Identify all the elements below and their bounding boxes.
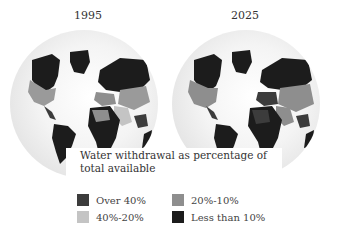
legend-item-40-20: 40%-20% (77, 211, 144, 223)
legend-swatch (77, 194, 89, 206)
legend-label: Less than 10% (191, 212, 265, 223)
legend-title-line-2: total available (80, 162, 280, 175)
legend-title: Water withdrawal as percentage of total … (80, 149, 280, 175)
legend-swatch (172, 211, 184, 223)
legend-label: Over 40% (96, 195, 146, 206)
legend-label: 40%-20% (96, 212, 144, 223)
legend-swatch (77, 211, 89, 223)
map-title-2025: 2025 (231, 9, 259, 22)
legend-item-20-10: 20%-10% (172, 194, 239, 206)
legend-item-less-10: Less than 10% (172, 211, 265, 223)
legend-title-line-1: Water withdrawal as percentage of (80, 149, 280, 162)
legend-item-over-40: Over 40% (77, 194, 146, 206)
legend-swatch (172, 194, 184, 206)
legend-label: 20%-10% (191, 195, 239, 206)
map-title-1995: 1995 (74, 9, 102, 22)
